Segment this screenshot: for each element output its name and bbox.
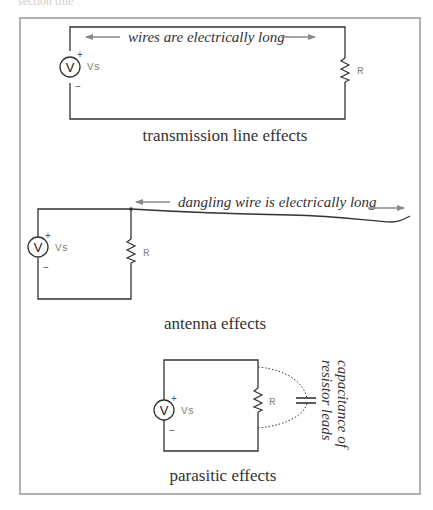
- source-label: Vs: [55, 242, 68, 254]
- panel-caption: parasitic effects: [170, 466, 277, 485]
- junction-dot: [129, 207, 133, 211]
- panel-caption: antenna effects: [164, 314, 266, 333]
- voltage-source: V + − Vs: [154, 393, 194, 436]
- voltage-symbol: V: [66, 60, 75, 75]
- resistor: R: [341, 58, 364, 82]
- dangling-wire: [131, 209, 410, 222]
- resistor-label: R: [269, 396, 276, 408]
- circuit-wires: [38, 209, 131, 299]
- resistor: R: [127, 239, 150, 263]
- resistor: R: [254, 388, 276, 412]
- circuit-diagram: V + − Vs R wires are electrically long t…: [0, 0, 433, 510]
- parasitic-path-bottom: [258, 403, 307, 428]
- voltage-source: V + − Vs: [28, 230, 68, 273]
- resistor-icon: [127, 239, 135, 263]
- resistor-icon: [254, 388, 262, 412]
- capacitance-annotation: capacitance of resistor leads: [319, 360, 351, 450]
- resistor-label: R: [357, 65, 364, 77]
- voltage-symbol: V: [34, 240, 43, 255]
- minus-sign: −: [169, 425, 175, 436]
- source-label: Vs: [181, 405, 194, 417]
- panel-transmission-line: V + − Vs R wires are electrically long t…: [60, 27, 364, 145]
- annotation-text: wires are electrically long: [128, 29, 285, 45]
- resistor-icon: [341, 58, 349, 82]
- resistor-label: R: [143, 247, 150, 259]
- plus-sign: +: [77, 49, 83, 60]
- annotation-line-2: resistor leads: [319, 360, 335, 441]
- circuit-wires: [164, 360, 258, 451]
- minus-sign: −: [75, 81, 81, 92]
- plus-sign: +: [45, 230, 51, 241]
- parasitic-path-top: [258, 367, 307, 399]
- panel-parasitic: V + − Vs R capacitance of resistor leads…: [154, 360, 351, 485]
- source-label: Vs: [87, 61, 100, 73]
- capacitor-icon: [296, 398, 316, 403]
- minus-sign: −: [43, 262, 49, 273]
- annotation-line-1: capacitance of: [335, 360, 351, 450]
- panel-caption: transmission line effects: [143, 126, 308, 145]
- plus-sign: +: [171, 393, 177, 404]
- panel-antenna: V + − Vs R dangling wire is electrically…: [28, 194, 410, 333]
- annotation-text: dangling wire is electrically long: [178, 194, 377, 210]
- voltage-symbol: V: [160, 403, 169, 418]
- voltage-source: V + − Vs: [60, 49, 100, 92]
